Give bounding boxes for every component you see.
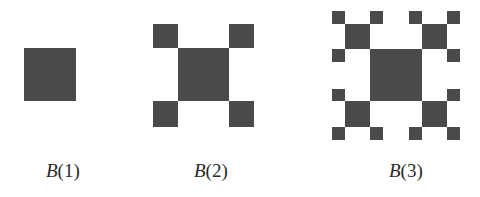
square — [332, 11, 345, 24]
label-name: B — [194, 160, 206, 181]
square — [409, 11, 422, 24]
square — [370, 127, 383, 140]
label-b3: B(3) — [389, 160, 423, 182]
square — [422, 101, 447, 127]
square — [370, 11, 383, 24]
square — [24, 48, 76, 101]
label-b1: B(1) — [46, 160, 80, 182]
square — [422, 24, 447, 49]
square — [332, 127, 345, 140]
square — [447, 49, 460, 62]
label-name: B — [46, 160, 58, 181]
square — [447, 11, 460, 24]
square — [447, 89, 460, 101]
square — [178, 48, 229, 101]
label-b2: B(2) — [194, 160, 228, 182]
box-fractal-diagram: B(1) B(2) B(3) — [0, 0, 480, 197]
square — [229, 101, 254, 127]
label-arg: (2) — [206, 160, 228, 181]
square — [447, 127, 460, 140]
square — [345, 24, 370, 49]
label-arg: (1) — [58, 160, 80, 181]
square — [332, 89, 345, 101]
square — [229, 24, 254, 48]
label-arg: (3) — [401, 160, 423, 181]
square — [153, 24, 178, 48]
square — [332, 49, 345, 62]
label-name: B — [389, 160, 401, 181]
square — [345, 101, 370, 127]
square — [153, 101, 178, 127]
square — [370, 49, 422, 101]
square — [409, 127, 422, 140]
